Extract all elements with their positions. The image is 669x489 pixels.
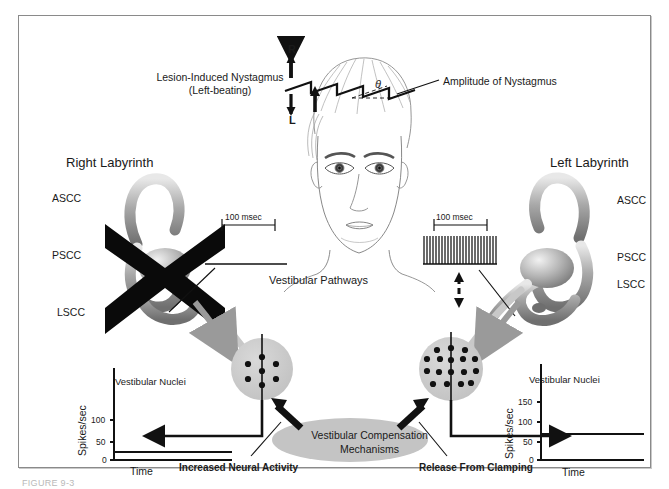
figure-frame: Lesion-Induced Nystagmus (Left-beating) … [18,15,651,468]
theta-angle-symbol: θ [375,78,381,92]
graph-ytick-left-50: 50 [96,437,105,448]
imbalance-arrow [454,272,464,308]
graph-ylabel-right: Spikes/sec [503,408,516,459]
right-labyrinth-title: Right Labyrinth [66,155,153,171]
graph-title-right: Vestibular Nuclei [529,374,600,386]
scale-bar-label-right: 100 msec [225,212,262,223]
left-canal-label-lscc: LSCC [617,278,645,291]
scale-bar-label-left: 100 msec [436,212,473,223]
increased-neural-activity-label: Increased Neural Activity [179,462,298,475]
graph-ytick-right-150: 150 [518,397,532,408]
graph-ytick-left-100: 100 [91,415,105,426]
left-canal-label-ascc: ASCC [617,194,646,207]
compensation-line1: Vestibular Compensation [311,429,428,441]
release-from-clamping-label: Release From Clamping [419,462,533,475]
right-canal-label-pscc: PSCC [52,249,81,262]
graph-ytick-left-0: 0 [102,455,107,466]
axis-left-letter: L [289,114,296,128]
compensation-mechanisms-label: Vestibular Compensation Mechanisms [302,429,437,456]
amplitude-of-nystagmus-label: Amplitude of Nystagmus [443,75,557,88]
compensation-line2: Mechanisms [340,443,399,455]
axis-right-letter: R [288,43,296,57]
graph-title-left: Vestibular Nuclei [115,376,186,388]
left-labyrinth-title: Left Labyrinth [550,155,629,171]
figure-caption: FIGURE 9-3 [22,478,75,488]
left-spike-recording [423,219,497,264]
graph-ytick-right-50: 50 [523,437,532,448]
graph-ytick-right-100: 100 [518,417,532,428]
graph-xlabel-right: Time [562,466,585,479]
right-canal-label-lscc: LSCC [57,306,85,319]
graph-xlabel-left: Time [130,465,153,478]
head-illustration [284,58,435,292]
lesion-induced-nystagmus-label: Lesion-Induced Nystagmus (Left-beating) [145,71,295,97]
diagram-artwork [19,16,652,469]
vestibular-pathways-label: Vestibular Pathways [269,274,368,288]
nystagmus-title-line2: (Left-beating) [145,84,295,97]
right-canal-label-ascc: ASCC [52,192,81,205]
nystagmus-title-line1: Lesion-Induced Nystagmus [156,71,283,83]
nystagmus-waveform [285,54,439,116]
left-canal-label-pscc: PSCC [617,251,646,264]
graph-ylabel-left: Spikes/sec [76,405,89,456]
